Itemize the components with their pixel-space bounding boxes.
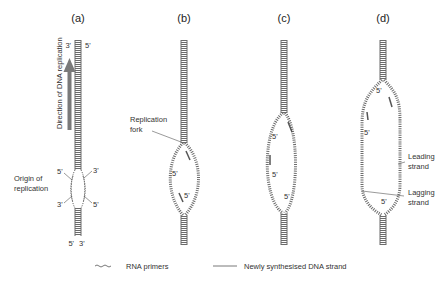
new-strand-segment (367, 112, 368, 120)
panel-a: 3' 5' 5' 3' 5' 3' 3' 5' Origin of replic… (14, 37, 99, 248)
bubble-label-lower-right: 5' (93, 200, 99, 209)
direction-arrow-icon (64, 58, 76, 130)
end-label-top-left: 3' (65, 41, 71, 50)
panel-label-a: (a) (71, 12, 84, 24)
panel-c: 5' 5' 5' (267, 40, 295, 245)
legend-label-rna-primers: RNA primers (126, 262, 169, 271)
new-strand-segment (186, 151, 190, 160)
end-label-bottom-left: 5' (68, 239, 74, 248)
panel-d: 5' 5' 5' Leading strand Lagging strand (362, 40, 435, 245)
replication-diagram: (a) (b) (c) (d) 3' 5' 5' 3' 5' (0, 0, 443, 284)
legend-label-new-strand: Newly synthesised DNA strand (244, 262, 347, 271)
bubble-label-upper-left: 5' (57, 167, 63, 176)
five-prime-label: 5' (272, 132, 278, 141)
panel-label-d: (d) (376, 12, 389, 24)
five-prime-label: 5' (184, 191, 190, 200)
replication-bubble (71, 170, 86, 208)
new-strand-segment (389, 97, 392, 107)
end-label-top-right: 5' (85, 41, 91, 50)
leading-strand-label-2: strand (408, 162, 429, 171)
dna-duplex-bottom (75, 208, 81, 236)
replication-fork-label-2: fork (130, 125, 143, 134)
lagging-strand-label-1: Lagging (408, 188, 435, 197)
direction-label: Direction of DNA replication (55, 37, 64, 129)
legend: RNA primers Newly synthesised DNA strand (95, 262, 347, 271)
lagging-strand-label-2: strand (408, 198, 429, 207)
origin-of-replication-label-2: replication (14, 184, 48, 193)
origin-of-replication-label-1: Origin of (14, 174, 43, 183)
panel-label-c: (c) (278, 12, 291, 24)
panel-b: 5' 5' Replication fork (130, 40, 199, 245)
five-prime-label: 5' (381, 197, 387, 206)
five-prime-label: 5' (172, 169, 178, 178)
five-prime-label: 5' (284, 192, 290, 201)
end-label-bottom-right: 3' (79, 239, 85, 248)
dna-duplex-top (75, 40, 81, 170)
replication-fork-label-1: Replication (130, 115, 167, 124)
bubble-label-upper-right: 3' (93, 166, 99, 175)
five-prime-label: 5' (272, 170, 278, 179)
five-prime-label: 5' (364, 128, 370, 137)
panel-label-b: (b) (177, 12, 190, 24)
leading-strand-label-1: Leading (408, 152, 435, 161)
bubble-label-lower-left: 3' (57, 200, 63, 209)
new-strand-segment (179, 193, 183, 202)
rna-primer-icon (95, 265, 111, 267)
five-prime-label: 5' (376, 86, 382, 95)
